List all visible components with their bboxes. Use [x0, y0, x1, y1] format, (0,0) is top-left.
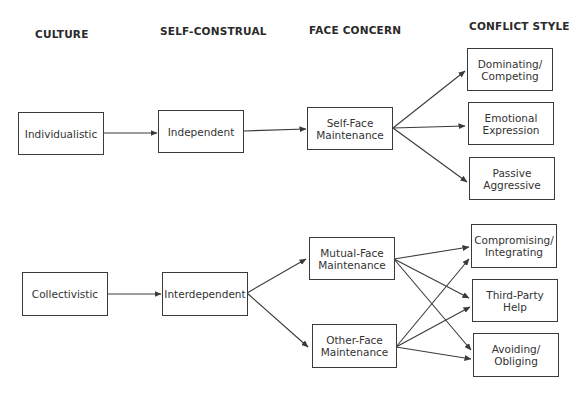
node-label-line1: Other-Face [321, 334, 389, 346]
node-label-line2: Integrating [474, 246, 554, 258]
node-label: Interdependent [164, 288, 245, 300]
node-label-line2: Competing [478, 70, 543, 82]
node-dominating-competing: Dominating/Competing [467, 48, 553, 91]
node-label-line1: Mutual-Face [318, 247, 386, 259]
node-label: Individualistic [25, 128, 97, 140]
node-individualistic: Individualistic [18, 112, 104, 155]
node-label-line1: Self-Face [316, 117, 384, 129]
node-other-face-maintenance: Other-FaceMaintenance [312, 324, 397, 368]
node-compromising-integrating: Compromising/Integrating [471, 224, 557, 268]
node-label-line1: Emotional [483, 112, 540, 124]
node-label-line1: Avoiding/ [492, 343, 541, 355]
node-label-line2: Expression [483, 124, 540, 136]
node-passive-aggressive: PassiveAggressive [469, 157, 555, 200]
node-collectivistic: Collectivistic [22, 272, 108, 316]
node-third-party-help: Third-PartyHelp [472, 279, 558, 322]
node-label-line2: Maintenance [321, 346, 389, 358]
node-avoiding-obliging: Avoiding/Obliging [473, 333, 559, 377]
node-label-line1: Passive [483, 167, 541, 179]
node-label-line2: Maintenance [316, 129, 384, 141]
node-label-line1: Third-Party [486, 289, 544, 301]
node-label-line2: Help [486, 301, 544, 313]
node-label-line1: Dominating/ [478, 58, 543, 70]
node-label-line2: Obliging [492, 355, 541, 367]
node-mutual-face-maintenance: Mutual-FaceMaintenance [309, 237, 395, 280]
node-self-face-maintenance: Self-FaceMaintenance [307, 107, 393, 150]
node-label-line2: Aggressive [483, 179, 541, 191]
node-emotional-expression: EmotionalExpression [468, 102, 554, 145]
node-label-line1: Compromising/ [474, 234, 554, 246]
node-label: Collectivistic [32, 288, 98, 300]
node-label-line2: Maintenance [318, 259, 386, 271]
node-interdependent: Interdependent [162, 272, 248, 316]
node-independent: Independent [158, 110, 244, 153]
node-label: Independent [168, 126, 235, 138]
